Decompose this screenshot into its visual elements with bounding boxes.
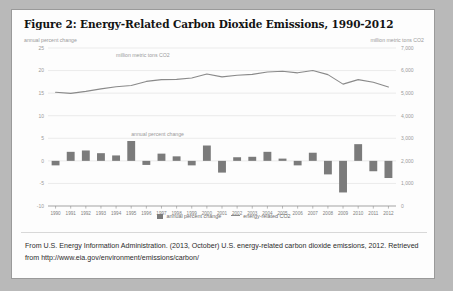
bar (354, 144, 362, 161)
bar (324, 161, 332, 175)
left-tick-label: 20 (38, 67, 44, 73)
bar (385, 161, 393, 178)
legend-item-line: energy-related CO2 (221, 213, 290, 219)
left-tick-label: 25 (38, 45, 44, 51)
bar (263, 152, 271, 161)
right-axis-title: million metric tons CO2 (370, 37, 424, 43)
chart-legend: annual percent change energy-related CO2 (12, 212, 436, 219)
bar (233, 157, 241, 161)
legend-line-label: energy-related CO2 (243, 213, 290, 219)
left-tick-label: 0 (41, 158, 44, 164)
bar (97, 153, 105, 161)
bar (67, 152, 75, 161)
bar (369, 161, 377, 171)
bar (339, 161, 347, 193)
figure-page: Figure 2: Energy-Related Carbon Dioxide … (0, 0, 453, 291)
bar (309, 153, 317, 161)
line-series (56, 71, 389, 94)
left-tick-label: -5 (40, 180, 45, 186)
figure-card: Figure 2: Energy-Related Carbon Dioxide … (11, 9, 435, 279)
combo-chart: 2520151050-5-10 01,0002,0003,0004,0005,0… (22, 44, 426, 230)
bar-swatch-icon (157, 214, 163, 219)
bar (112, 155, 120, 160)
bar (127, 141, 135, 161)
divider (21, 232, 427, 233)
source-line-1: From U.S. Energy Information Administrat… (25, 242, 366, 250)
bar (52, 161, 60, 166)
line-swatch-icon (231, 215, 240, 216)
legend-item-bar: annual percent change (157, 213, 221, 219)
left-tick-label: 15 (38, 90, 44, 96)
right-tick-label: 7,000 (401, 45, 414, 51)
bar (294, 161, 302, 166)
bar (173, 156, 181, 161)
source-citation: From U.S. Energy Information Administrat… (25, 241, 425, 264)
right-tick-label: 3,000 (401, 135, 414, 141)
right-tick-label: 5,000 (401, 90, 414, 96)
bar (82, 150, 90, 160)
bar (158, 154, 166, 161)
line-series-annotation: million metric tons CO2 (116, 52, 170, 58)
right-tick-label: 2,000 (401, 158, 414, 164)
bar (203, 146, 211, 161)
bar-series-annotation: annual percent change (131, 131, 184, 137)
right-tick-label: 0 (401, 203, 404, 209)
left-axis-ticks: 2520151050-5-10 (37, 45, 44, 209)
right-tick-label: 6,000 (401, 67, 414, 73)
bar (248, 157, 256, 161)
bar-series (52, 141, 393, 192)
left-tick-label: 5 (41, 135, 44, 141)
left-axis-title: annual percent change (24, 37, 77, 43)
right-tick-label: 1,000 (401, 180, 414, 186)
bar (218, 161, 226, 173)
legend-bar-label: annual percent change (166, 213, 221, 219)
line-path (56, 71, 389, 94)
bar (279, 159, 287, 161)
chart-plot-area: 2520151050-5-10 01,0002,0003,0004,0005,0… (22, 44, 426, 230)
left-tick-label: -10 (37, 203, 44, 209)
left-tick-label: 10 (38, 113, 44, 119)
bar (188, 161, 196, 166)
page-title: Figure 2: Energy-Related Carbon Dioxide … (24, 18, 393, 30)
bar (142, 161, 150, 165)
right-axis-ticks: 01,0002,0003,0004,0005,0006,0007,000 (401, 45, 414, 209)
right-tick-label: 4,000 (401, 113, 414, 119)
